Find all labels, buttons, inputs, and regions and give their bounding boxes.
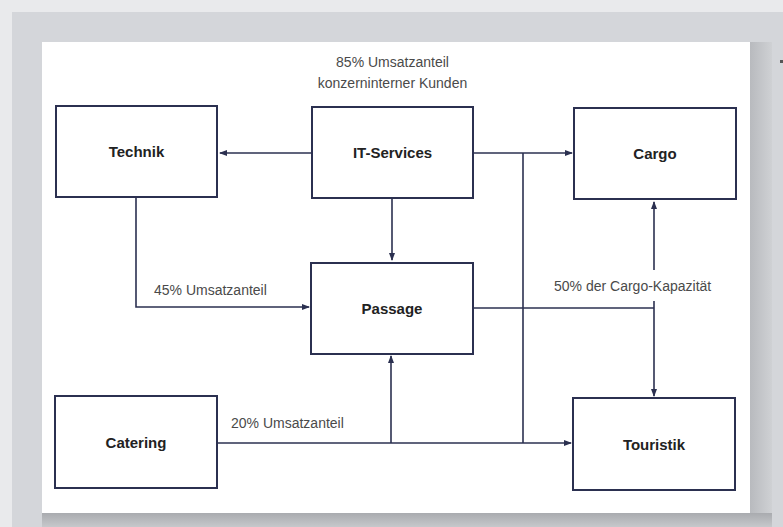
- node-label: Catering: [106, 434, 167, 451]
- node-label: IT-Services: [353, 144, 432, 161]
- node-label: Cargo: [633, 145, 676, 162]
- catering-passage-label: 20% Umsatzanteil: [231, 413, 344, 434]
- node-passage: Passage: [310, 262, 474, 355]
- node-technik: Technik: [55, 105, 218, 198]
- cargo-capacity-label: 50% der Cargo-Kapazität: [554, 276, 711, 297]
- node-touristik: Touristik: [572, 397, 736, 491]
- node-it-services: IT-Services: [311, 106, 474, 199]
- annotation-line-1: 85% Umsatzanteil: [300, 52, 485, 73]
- node-cargo: Cargo: [573, 107, 737, 200]
- technik-passage-label: 45% Umsatzanteil: [154, 280, 267, 301]
- node-catering: Catering: [54, 395, 218, 489]
- annotation-line-2: konzerninterner Kunden: [300, 73, 485, 94]
- it-services-annotation: 85% Umsatzanteil konzerninterner Kunden: [300, 52, 485, 94]
- node-label: Touristik: [623, 436, 685, 453]
- node-label: Technik: [109, 143, 165, 160]
- node-label: Passage: [362, 300, 423, 317]
